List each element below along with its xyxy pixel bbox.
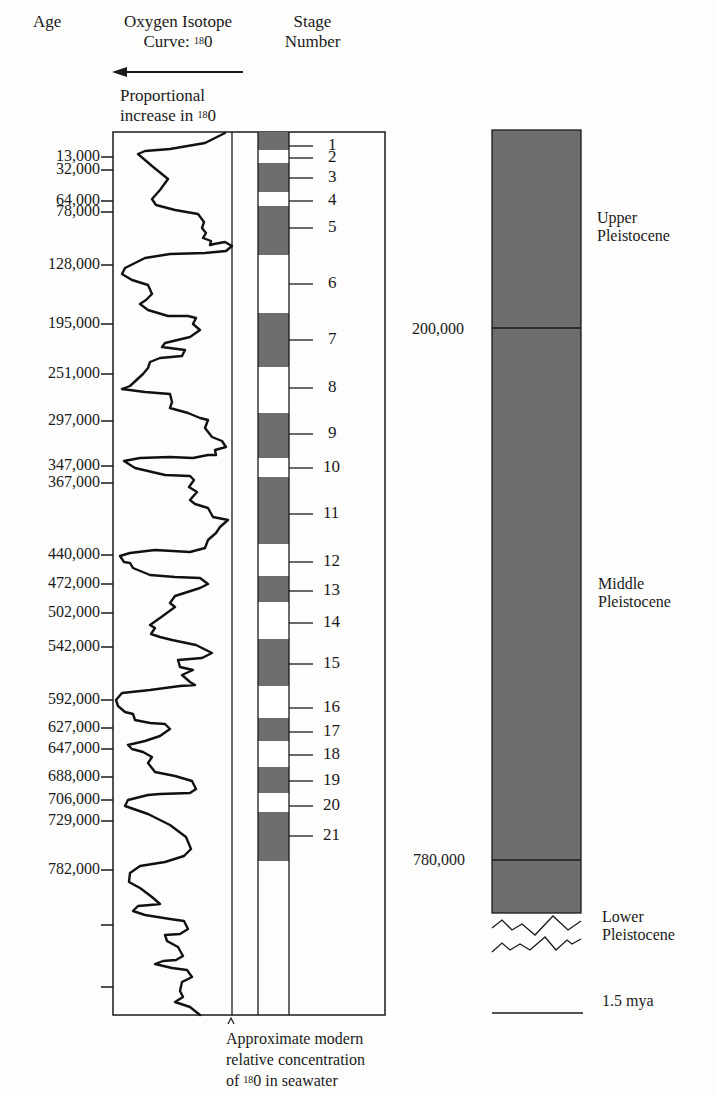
stage-number-label: 4 [328, 192, 337, 208]
age-label: 729,000 [0, 812, 100, 828]
stage-number-label: 2 [328, 149, 337, 165]
middle-label-line2: Pleistocene [598, 593, 671, 611]
stage-band-9 [258, 413, 289, 458]
stage-band-12 [258, 544, 289, 576]
stage-number-label: 12 [323, 553, 340, 569]
stage-band-10 [258, 458, 289, 477]
stage-number-label: 11 [323, 505, 339, 521]
stage-number-label: 3 [328, 169, 337, 185]
age-label: 502,000 [0, 604, 100, 620]
age-label: 367,000 [0, 474, 100, 490]
stage-band-7 [258, 313, 289, 367]
age-label: 647,000 [0, 740, 100, 756]
modern-concentration-note: Approximate modern relative concentratio… [226, 1028, 365, 1091]
bottom-age-label: 1.5 mya [602, 992, 654, 1010]
lower-label-line2: Pleistocene [602, 926, 675, 944]
age-label: 128,000 [0, 256, 100, 272]
chart-frame [113, 132, 385, 1015]
upper-label-line2: Pleistocene [597, 227, 670, 245]
stage-band-17 [258, 718, 289, 741]
age-label: 297,000 [0, 412, 100, 428]
stage-band-5 [258, 206, 289, 255]
age-label: 32,000 [0, 161, 100, 177]
age-label: 542,000 [0, 638, 100, 654]
stage-number-label: 17 [323, 723, 340, 739]
stage-number-label: 13 [323, 582, 340, 598]
footnote-line1: Approximate modern [226, 1028, 365, 1049]
boundary-780k-label: 780,000 [413, 851, 465, 869]
pleistocene-column-upper-body [492, 130, 581, 913]
age-label: 592,000 [0, 691, 100, 707]
stage-number-label: 6 [328, 275, 337, 291]
pleistocene-column [490, 130, 583, 1013]
oxygen-isotope-curve [116, 133, 232, 1015]
upper-label-line1: Upper [597, 209, 670, 227]
stage-number-label: 8 [328, 379, 337, 395]
age-label: 688,000 [0, 768, 100, 784]
stage-band-13 [258, 576, 289, 602]
age-label: 440,000 [0, 546, 100, 562]
stage-number-label: 21 [323, 827, 340, 843]
stage-band-20 [258, 793, 289, 812]
stage-band-16 [258, 686, 289, 718]
footnote-line3: of 180 in seawater [226, 1070, 365, 1091]
stage-number-label: 20 [323, 797, 340, 813]
stage-band-3 [258, 163, 289, 192]
stage-band-19 [258, 767, 289, 793]
stage-band-15 [258, 639, 289, 686]
stage-number-label: 9 [328, 425, 337, 441]
age-label: 347,000 [0, 457, 100, 473]
stage-number-label: 5 [328, 219, 337, 235]
footnote-line2: relative concentration [226, 1049, 365, 1070]
stage-number-label: 14 [323, 614, 340, 630]
stage-number-label: 15 [323, 655, 340, 671]
caret-icon [228, 1018, 234, 1024]
age-label: 251,000 [0, 365, 100, 381]
footnote-suffix: 0 in seawater [253, 1072, 337, 1089]
stage-number-label: 18 [323, 746, 340, 762]
stage-band-14 [258, 602, 289, 639]
stage-band-21 [258, 812, 289, 861]
stage-band-8 [258, 367, 289, 413]
lower-label-line1: Lower [602, 908, 675, 926]
stage-ticks [289, 146, 313, 836]
stage-number-label: 7 [328, 331, 337, 347]
footnote-sup: 18 [243, 1074, 253, 1085]
stage-band-18 [258, 741, 289, 767]
stage-band-6 [258, 255, 289, 313]
stage-band-1 [258, 132, 289, 150]
age-label: 706,000 [0, 791, 100, 807]
age-label: 195,000 [0, 315, 100, 331]
stage-bands [258, 132, 289, 861]
lower-pleistocene-label: Lower Pleistocene [602, 908, 675, 944]
middle-pleistocene-label: Middle Pleistocene [598, 575, 671, 611]
age-ticks [101, 157, 113, 987]
stage-band-2 [258, 150, 289, 163]
stage-band-11 [258, 477, 289, 544]
left-arrow-icon [112, 67, 243, 77]
stage-number-label: 19 [323, 772, 340, 788]
age-label: 782,000 [0, 861, 100, 877]
boundary-200k-label: 200,000 [412, 320, 464, 338]
age-label: 472,000 [0, 575, 100, 591]
middle-label-line1: Middle [598, 575, 671, 593]
upper-pleistocene-label: Upper Pleistocene [597, 209, 670, 245]
stage-band-4 [258, 192, 289, 206]
age-label: 78,000 [0, 203, 100, 219]
age-label: 627,000 [0, 719, 100, 735]
footnote-prefix: of [226, 1072, 243, 1089]
stage-number-label: 16 [323, 699, 340, 715]
stage-number-label: 10 [323, 459, 340, 475]
